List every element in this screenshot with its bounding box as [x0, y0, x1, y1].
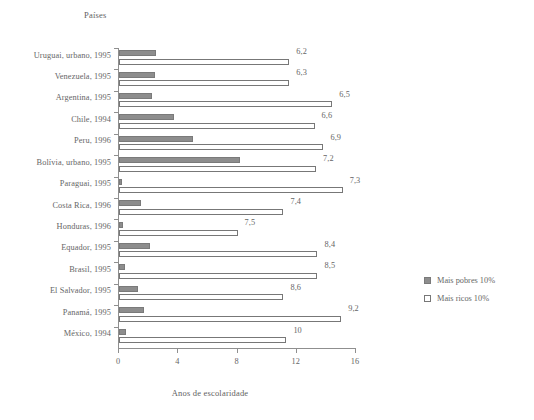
y-axis-tick — [114, 91, 118, 92]
bar-richest-decile — [119, 294, 283, 300]
bar-row: Uruguai, urbano, 19956,2 — [118, 48, 355, 69]
ratio-annotation: 7,4 — [290, 197, 301, 206]
bar-richest-decile — [119, 59, 289, 65]
bar-poorest-decile — [119, 264, 125, 270]
bar-row: Peru, 19966,9 — [118, 134, 355, 155]
ratio-annotation: 6,3 — [296, 68, 307, 77]
bar-row: Equador, 19958,4 — [118, 241, 355, 262]
y-axis-tick — [114, 241, 118, 242]
category-label: Costa Rica, 1996 — [52, 201, 111, 210]
legend-label-richest: Mais ricos 10% — [437, 294, 489, 303]
y-axis-tick — [114, 134, 118, 135]
bar-richest-decile — [119, 251, 317, 257]
ratio-annotation: 8,6 — [290, 283, 301, 292]
category-label: Chile, 1994 — [71, 115, 111, 124]
y-axis-tick — [114, 219, 118, 220]
bar-richest-decile — [119, 316, 341, 322]
bar-row: Brasil, 19958,5 — [118, 262, 355, 283]
x-axis-tick-label: 4 — [175, 357, 179, 366]
y-axis-tick — [114, 177, 118, 178]
bar-poorest-decile — [119, 329, 126, 335]
bar-poorest-decile — [119, 157, 240, 163]
x-axis-tick-label: 8 — [234, 357, 238, 366]
bar-row: Bolívia, urbano, 19957,2 — [118, 155, 355, 176]
x-axis-tick-label: 12 — [292, 357, 300, 366]
x-axis-tick — [237, 348, 238, 353]
category-label: Panamá, 1995 — [63, 308, 111, 317]
legend-label-poorest: Mais pobres 10% — [437, 276, 495, 285]
ratio-annotation: 6,5 — [339, 90, 350, 99]
bar-poorest-decile — [119, 114, 174, 120]
y-axis-tick — [114, 284, 118, 285]
legend-item-richest: Mais ricos 10% — [424, 294, 495, 303]
ratio-annotation: 6,9 — [330, 133, 341, 142]
filled-gray-swatch-icon — [424, 277, 431, 284]
bar-row: Paraguai, 19957,3 — [118, 177, 355, 198]
y-axis-tick — [114, 305, 118, 306]
outlined-white-swatch-icon — [424, 295, 431, 302]
ratio-annotation: 6,2 — [296, 47, 307, 56]
ratio-annotation: 7,5 — [245, 218, 256, 227]
bar-row: Chile, 19946,6 — [118, 112, 355, 133]
ratio-annotation: 8,5 — [324, 261, 335, 270]
y-axis-tick — [114, 155, 118, 156]
category-label: Bolívia, urbano, 1995 — [37, 158, 111, 167]
bar-richest-decile — [119, 101, 332, 107]
category-label: Paraguai, 1995 — [60, 179, 111, 188]
bar-poorest-decile — [119, 93, 152, 99]
ratio-annotation: 6,6 — [322, 111, 333, 120]
category-label: Peru, 1996 — [74, 136, 111, 145]
chart-legend: Mais pobres 10% Mais ricos 10% — [424, 276, 495, 312]
bar-poorest-decile — [119, 136, 193, 142]
bar-row: Costa Rica, 19967,4 — [118, 198, 355, 219]
bar-row: Venezuela, 19956,3 — [118, 69, 355, 90]
x-axis-tick — [177, 348, 178, 353]
bar-richest-decile — [119, 123, 315, 129]
bar-row: Honduras, 19967,5 — [118, 219, 355, 240]
bar-poorest-decile — [119, 222, 123, 228]
ratio-annotation: 9,2 — [348, 304, 359, 313]
category-label: Brasil, 1995 — [69, 265, 111, 274]
y-axis-tick — [114, 198, 118, 199]
bar-row: Argentina, 19956,5 — [118, 91, 355, 112]
bar-row: El Salvador, 19958,6 — [118, 284, 355, 305]
category-label: Argentina, 1995 — [56, 93, 111, 102]
bar-poorest-decile — [119, 307, 144, 313]
bar-richest-decile — [119, 209, 283, 215]
bar-row: Panamá, 19959,2 — [118, 305, 355, 326]
x-axis-tick — [118, 348, 119, 353]
category-label: México, 1994 — [64, 329, 111, 338]
x-axis-tick-label: 0 — [116, 357, 120, 366]
y-axis-tick — [114, 262, 118, 263]
ratio-annotation: 7,2 — [323, 154, 334, 163]
x-axis-tick — [355, 348, 356, 353]
category-label: Venezuela, 1995 — [55, 72, 111, 81]
bar-poorest-decile — [119, 286, 138, 292]
ratio-annotation: 7,3 — [350, 176, 361, 185]
bar-poorest-decile — [119, 50, 156, 56]
bar-poorest-decile — [119, 200, 141, 206]
y-axis-tick — [114, 112, 118, 113]
bar-richest-decile — [119, 187, 343, 193]
bar-richest-decile — [119, 337, 286, 343]
bar-poorest-decile — [119, 243, 150, 249]
y-axis-title: Países — [84, 10, 106, 20]
category-label: Equador, 1995 — [61, 243, 111, 252]
bar-poorest-decile — [119, 179, 122, 185]
bar-richest-decile — [119, 166, 316, 172]
category-label: Uruguai, urbano, 1995 — [34, 51, 111, 60]
x-axis-tick — [296, 348, 297, 353]
plot-area: Uruguai, urbano, 19956,2Venezuela, 19956… — [118, 48, 355, 348]
category-label: Honduras, 1996 — [57, 222, 111, 231]
y-axis-tick — [114, 327, 118, 328]
y-axis-tick — [114, 48, 118, 49]
bar-richest-decile — [119, 273, 317, 279]
bar-richest-decile — [119, 80, 289, 86]
x-axis-title: Anos de escolaridade — [0, 388, 420, 398]
ratio-annotation: 10 — [293, 326, 302, 335]
bar-richest-decile — [119, 144, 323, 150]
bar-poorest-decile — [119, 72, 155, 78]
bar-row: México, 199410 — [118, 327, 355, 348]
y-axis-tick — [114, 69, 118, 70]
ratio-annotation: 8,4 — [324, 240, 335, 249]
